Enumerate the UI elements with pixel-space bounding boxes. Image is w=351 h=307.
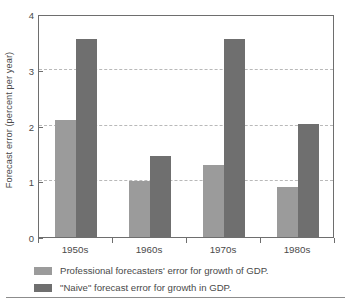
bar-group-1970s — [187, 16, 261, 237]
bar-1950s-series0 — [55, 120, 76, 237]
legend-item-series1: "Naive" forecast error for growth in GDP… — [34, 279, 334, 296]
bar-1960s-series0 — [129, 181, 150, 237]
bar-1970s-series0 — [203, 165, 224, 237]
y-axis-tick-label: 4 — [20, 10, 34, 21]
x-axis-tick-mark — [186, 238, 187, 243]
y-axis-tick-label: 3 — [20, 65, 34, 76]
bar-1960s-series1 — [150, 156, 171, 237]
y-axis-tick-mark — [38, 71, 43, 72]
x-axis-tick-mark — [334, 238, 335, 243]
legend-label-series1: "Naive" forecast error for growth in GDP… — [60, 282, 231, 293]
bar-1980s-series1 — [298, 124, 319, 237]
y-axis-tick-mark — [38, 15, 43, 16]
y-axis-tick-label: 1 — [20, 177, 34, 188]
bottom-divider — [6, 297, 345, 298]
bar-group-1980s — [261, 16, 335, 237]
legend-swatch-series0 — [34, 267, 52, 275]
y-axis-tick-mark — [38, 182, 43, 183]
bar-1970s-series1 — [224, 39, 245, 237]
x-axis-tick-label-1970s: 1970s — [193, 244, 253, 255]
x-axis-tick-mark — [112, 238, 113, 243]
plot-area — [38, 15, 334, 238]
chart-figure: Forecast error (percent per year) 01234 … — [0, 0, 351, 307]
y-axis-tick-label: 2 — [20, 121, 34, 132]
x-axis-tick-mark — [260, 238, 261, 243]
legend-item-series0: Professional forecasters' error for grow… — [34, 262, 334, 279]
bar-1980s-series0 — [277, 187, 298, 237]
bar-group-1960s — [113, 16, 187, 237]
plot-inner — [39, 16, 333, 237]
y-axis-tick-labels: 01234 — [16, 15, 34, 238]
y-axis-tick-mark — [38, 127, 43, 128]
legend-label-series0: Professional forecasters' error for grow… — [60, 265, 269, 276]
y-axis-tick-label: 0 — [20, 233, 34, 244]
legend-swatch-series1 — [34, 284, 52, 292]
x-axis-tick-label-1980s: 1980s — [267, 244, 327, 255]
x-axis-tick-mark — [38, 238, 39, 243]
bar-1950s-series1 — [76, 39, 97, 237]
y-axis-title-text: Forecast error (percent per year) — [4, 52, 14, 189]
chart-legend: Professional forecasters' error for grow… — [34, 262, 334, 296]
x-axis-tick-label-1950s: 1950s — [45, 244, 105, 255]
x-axis-tick-label-1960s: 1960s — [119, 244, 179, 255]
bar-group-1950s — [39, 16, 113, 237]
